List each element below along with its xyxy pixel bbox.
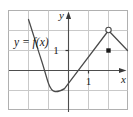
y-unit-tick-label: 1 <box>53 44 59 56</box>
function-graph-figure: y = f(x) y x 1 1 <box>0 0 133 117</box>
open-circle-marker <box>106 27 111 32</box>
function-label: y = f(x) <box>13 36 49 49</box>
y-axis-label: y <box>58 9 64 21</box>
filled-point-marker <box>106 48 110 52</box>
x-unit-tick-label: 1 <box>86 75 92 87</box>
x-axis-label: x <box>120 73 126 85</box>
